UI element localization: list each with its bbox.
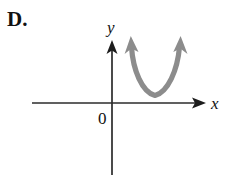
x-axis-label: x xyxy=(210,94,219,113)
coordinate-plane: y x 0 xyxy=(0,0,229,175)
origin-label: 0 xyxy=(98,109,107,128)
parabola-curve xyxy=(132,47,180,96)
graph-figure: D. y x 0 xyxy=(0,0,229,175)
y-axis-label: y xyxy=(105,18,115,37)
